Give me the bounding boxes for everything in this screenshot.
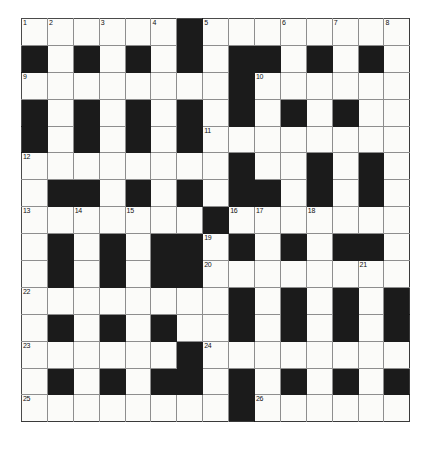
crossword-cell-open[interactable] bbox=[125, 261, 151, 288]
crossword-cell-open[interactable] bbox=[255, 99, 281, 126]
crossword-cell-open[interactable] bbox=[384, 180, 410, 207]
crossword-cell-open[interactable] bbox=[99, 72, 125, 99]
crossword-cell-open[interactable] bbox=[22, 368, 48, 395]
crossword-cell-open[interactable] bbox=[125, 234, 151, 261]
crossword-cell-open[interactable] bbox=[229, 261, 255, 288]
crossword-cell-open[interactable] bbox=[73, 19, 99, 46]
crossword-cell-open[interactable] bbox=[151, 395, 177, 422]
crossword-cell-open[interactable] bbox=[125, 153, 151, 180]
crossword-cell-open[interactable] bbox=[47, 341, 73, 368]
crossword-cell-open[interactable] bbox=[280, 45, 306, 72]
crossword-cell-open[interactable] bbox=[280, 261, 306, 288]
crossword-cell-open[interactable] bbox=[384, 153, 410, 180]
crossword-cell-open[interactable]: 2 bbox=[47, 19, 73, 46]
crossword-cell-open[interactable]: 19 bbox=[203, 234, 229, 261]
crossword-cell-open[interactable] bbox=[306, 19, 332, 46]
crossword-cell-open[interactable] bbox=[73, 395, 99, 422]
crossword-cell-open[interactable] bbox=[306, 261, 332, 288]
crossword-cell-open[interactable] bbox=[280, 72, 306, 99]
crossword-cell-open[interactable] bbox=[99, 99, 125, 126]
crossword-cell-open[interactable] bbox=[384, 99, 410, 126]
crossword-cell-open[interactable] bbox=[332, 395, 358, 422]
crossword-cell-open[interactable] bbox=[332, 261, 358, 288]
crossword-cell-open[interactable] bbox=[358, 287, 384, 314]
crossword-cell-open[interactable] bbox=[306, 368, 332, 395]
crossword-cell-open[interactable] bbox=[125, 287, 151, 314]
crossword-cell-open[interactable] bbox=[203, 45, 229, 72]
crossword-cell-open[interactable] bbox=[306, 287, 332, 314]
crossword-cell-open[interactable] bbox=[47, 395, 73, 422]
crossword-cell-open[interactable] bbox=[125, 368, 151, 395]
crossword-cell-open[interactable]: 23 bbox=[22, 341, 48, 368]
crossword-cell-open[interactable] bbox=[203, 153, 229, 180]
crossword-cell-open[interactable] bbox=[255, 261, 281, 288]
crossword-cell-open[interactable] bbox=[203, 368, 229, 395]
crossword-cell-open[interactable] bbox=[203, 314, 229, 341]
crossword-cell-open[interactable] bbox=[73, 153, 99, 180]
crossword-cell-open[interactable] bbox=[332, 341, 358, 368]
crossword-cell-open[interactable] bbox=[125, 19, 151, 46]
crossword-cell-open[interactable] bbox=[229, 126, 255, 153]
crossword-cell-open[interactable] bbox=[358, 207, 384, 234]
crossword-cell-open[interactable] bbox=[255, 126, 281, 153]
crossword-cell-open[interactable]: 22 bbox=[22, 287, 48, 314]
crossword-cell-open[interactable] bbox=[177, 395, 203, 422]
crossword-cell-open[interactable] bbox=[151, 126, 177, 153]
crossword-cell-open[interactable] bbox=[358, 72, 384, 99]
crossword-cell-open[interactable] bbox=[151, 45, 177, 72]
crossword-cell-open[interactable]: 8 bbox=[384, 19, 410, 46]
crossword-cell-open[interactable] bbox=[73, 287, 99, 314]
crossword-grid[interactable]: 1234567891011121314151617181920212223242… bbox=[21, 18, 410, 422]
crossword-cell-open[interactable] bbox=[47, 287, 73, 314]
crossword-cell-open[interactable] bbox=[73, 261, 99, 288]
crossword-cell-open[interactable] bbox=[203, 287, 229, 314]
crossword-cell-open[interactable] bbox=[47, 72, 73, 99]
crossword-cell-open[interactable] bbox=[384, 126, 410, 153]
crossword-cell-open[interactable] bbox=[384, 72, 410, 99]
crossword-cell-open[interactable] bbox=[47, 45, 73, 72]
crossword-cell-open[interactable] bbox=[306, 341, 332, 368]
crossword-cell-open[interactable]: 25 bbox=[22, 395, 48, 422]
crossword-cell-open[interactable] bbox=[99, 45, 125, 72]
crossword-cell-open[interactable] bbox=[125, 72, 151, 99]
crossword-cell-open[interactable] bbox=[332, 126, 358, 153]
crossword-cell-open[interactable] bbox=[306, 126, 332, 153]
crossword-cell-open[interactable]: 20 bbox=[203, 261, 229, 288]
crossword-cell-open[interactable] bbox=[229, 19, 255, 46]
crossword-cell-open[interactable]: 5 bbox=[203, 19, 229, 46]
crossword-cell-open[interactable]: 3 bbox=[99, 19, 125, 46]
crossword-cell-open[interactable] bbox=[47, 153, 73, 180]
crossword-cell-open[interactable] bbox=[177, 287, 203, 314]
crossword-cell-open[interactable] bbox=[47, 207, 73, 234]
crossword-cell-open[interactable] bbox=[151, 72, 177, 99]
crossword-cell-open[interactable] bbox=[47, 99, 73, 126]
crossword-cell-open[interactable] bbox=[306, 314, 332, 341]
crossword-cell-open[interactable] bbox=[280, 180, 306, 207]
crossword-cell-open[interactable] bbox=[73, 314, 99, 341]
crossword-cell-open[interactable] bbox=[73, 234, 99, 261]
crossword-cell-open[interactable] bbox=[358, 368, 384, 395]
crossword-cell-open[interactable] bbox=[384, 234, 410, 261]
crossword-cell-open[interactable] bbox=[280, 341, 306, 368]
crossword-cell-open[interactable] bbox=[306, 234, 332, 261]
crossword-cell-open[interactable] bbox=[99, 395, 125, 422]
crossword-cell-open[interactable]: 18 bbox=[306, 207, 332, 234]
crossword-cell-open[interactable] bbox=[384, 45, 410, 72]
crossword-cell-open[interactable] bbox=[384, 341, 410, 368]
crossword-cell-open[interactable] bbox=[358, 19, 384, 46]
crossword-cell-open[interactable] bbox=[73, 368, 99, 395]
crossword-cell-open[interactable] bbox=[99, 287, 125, 314]
crossword-cell-open[interactable]: 16 bbox=[229, 207, 255, 234]
crossword-cell-open[interactable] bbox=[255, 19, 281, 46]
crossword-cell-open[interactable] bbox=[99, 180, 125, 207]
crossword-cell-open[interactable] bbox=[358, 126, 384, 153]
crossword-cell-open[interactable]: 21 bbox=[358, 261, 384, 288]
crossword-cell-open[interactable] bbox=[280, 126, 306, 153]
crossword-cell-open[interactable]: 14 bbox=[73, 207, 99, 234]
crossword-cell-open[interactable]: 9 bbox=[22, 72, 48, 99]
crossword-cell-open[interactable] bbox=[177, 207, 203, 234]
crossword-cell-open[interactable] bbox=[280, 153, 306, 180]
crossword-cell-open[interactable] bbox=[177, 314, 203, 341]
crossword-cell-open[interactable] bbox=[99, 207, 125, 234]
crossword-cell-open[interactable] bbox=[22, 234, 48, 261]
